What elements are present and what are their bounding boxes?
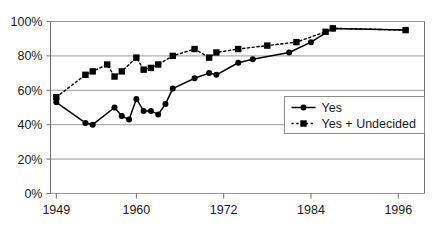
data-point-marker (141, 108, 147, 114)
x-tick-label: 1949 (42, 203, 70, 217)
data-point-marker (111, 73, 117, 79)
chart-container: 0%20%40%60%80%100% 19491960197219841996 … (0, 0, 442, 236)
data-point-marker (308, 39, 314, 45)
data-point-marker (206, 70, 212, 76)
data-point-marker (112, 105, 118, 111)
data-point-marker (402, 27, 408, 33)
data-point-marker (213, 49, 219, 55)
data-point-marker (148, 65, 154, 71)
legend-marker (300, 120, 306, 126)
data-point-marker (170, 86, 176, 92)
x-tick-label: 1960 (122, 203, 150, 217)
data-point-marker (155, 61, 161, 67)
data-point-marker (90, 122, 96, 128)
data-point-marker (140, 66, 146, 72)
data-point-marker (206, 54, 212, 60)
data-point-marker (293, 39, 299, 45)
data-point-marker (104, 61, 110, 67)
chart-legend[interactable]: YesYes + Undecided (285, 97, 425, 134)
legend-label: Yes (322, 101, 342, 115)
data-point-marker (126, 117, 132, 123)
data-point-marker (53, 94, 59, 100)
y-tick-label: 20% (17, 153, 42, 167)
y-tick-label: 60% (17, 84, 42, 98)
data-point-marker (133, 96, 139, 102)
data-point-marker (170, 53, 176, 59)
data-point-marker (119, 68, 125, 74)
data-point-marker (264, 42, 270, 48)
data-point-marker (133, 54, 139, 60)
x-tick-label: 1984 (297, 203, 325, 217)
data-point-marker (82, 72, 88, 78)
y-tick-label: 0% (24, 187, 42, 201)
line-chart: 0%20%40%60%80%100% 19491960197219841996 … (0, 0, 442, 236)
legend-label: Yes + Undecided (322, 117, 416, 131)
data-point-marker (155, 111, 161, 117)
data-point-marker (322, 29, 328, 35)
data-point-marker (192, 75, 198, 81)
data-point-marker (213, 72, 219, 78)
y-tick-label: 100% (11, 15, 43, 29)
data-point-marker (162, 101, 168, 107)
y-tick-label: 40% (17, 118, 42, 132)
data-point-marker (119, 113, 125, 119)
data-point-marker (90, 68, 96, 74)
x-tick-label: 1996 (384, 203, 412, 217)
data-point-marker (235, 46, 241, 52)
data-point-marker (250, 56, 256, 62)
legend-marker (301, 105, 307, 111)
x-tick-label: 1972 (210, 203, 238, 217)
data-point-marker (148, 108, 154, 114)
data-point-marker (286, 49, 292, 55)
data-point-marker (330, 25, 336, 31)
data-point-marker (82, 120, 88, 126)
data-point-marker (191, 46, 197, 52)
y-tick-label: 80% (17, 49, 42, 63)
data-point-marker (235, 60, 241, 66)
